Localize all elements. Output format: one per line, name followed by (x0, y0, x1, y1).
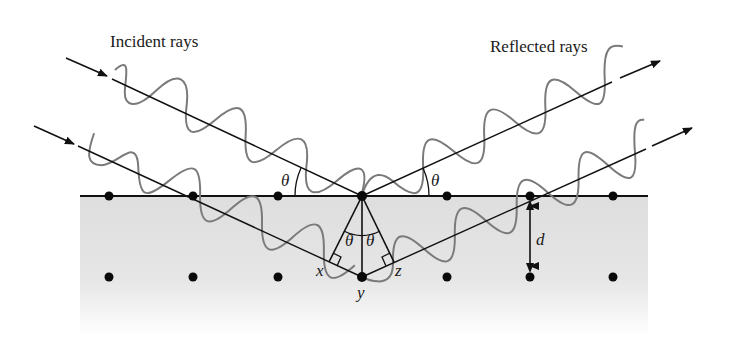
reflected-ray-2-arrow (652, 128, 692, 146)
crystal-region (80, 196, 648, 336)
incident-ray-1-arrow (66, 58, 107, 76)
x-label: x (315, 261, 324, 280)
incident-ray-2-arrow (34, 126, 74, 144)
d-label: d (536, 230, 545, 249)
theta-inner-right-label: θ (366, 231, 374, 250)
wave-incident-1 (105, 51, 372, 214)
z-label: z (394, 261, 402, 280)
incident-rays-label: Incident rays (110, 32, 198, 51)
y-label: y (355, 283, 365, 302)
reflected-ray-1 (362, 82, 612, 196)
theta-inner-left-label: θ (345, 231, 353, 250)
theta-left-label: θ (281, 171, 289, 190)
theta-right-label: θ (431, 171, 439, 190)
wave-reflected-1 (351, 42, 641, 214)
bragg-diffraction-diagram: Incident rays Reflected rays θ θ θ θ x y… (0, 0, 731, 341)
angle-arc-left (295, 168, 301, 196)
reflected-ray-1-arrow (620, 61, 660, 78)
reflected-rays-label: Reflected rays (490, 37, 588, 56)
